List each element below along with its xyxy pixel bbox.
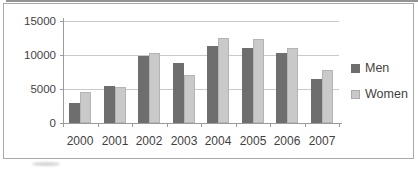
bar-women-2006 (287, 48, 298, 123)
bar-women-2001 (115, 87, 126, 123)
x-axis-label-2002: 2002 (132, 135, 166, 148)
y-axis-label-0: 0 (16, 117, 56, 129)
legend-item-women: Women (351, 88, 408, 101)
x-axis-label-2000: 2000 (63, 135, 97, 148)
x-tick-4 (201, 124, 202, 127)
top-edge-line (6, 0, 418, 2)
bar-women-2002 (149, 53, 160, 123)
bar-men-2007 (311, 79, 322, 123)
chart-frame: 0500010000150002000200120022003200420052… (3, 3, 414, 159)
x-tick-3 (167, 124, 168, 127)
y-axis-label-10000: 10000 (16, 49, 56, 61)
bar-men-2003 (173, 63, 184, 123)
gridline-15000 (63, 21, 339, 22)
bar-women-2004 (218, 38, 229, 123)
legend: MenWomen (351, 62, 408, 114)
x-tick-1 (98, 124, 99, 127)
x-axis-label-2003: 2003 (167, 135, 201, 148)
legend-label-women: Women (365, 88, 408, 101)
bar-men-2001 (104, 86, 115, 123)
x-axis-label-2006: 2006 (270, 135, 304, 148)
y-axis-line (63, 18, 64, 124)
bar-men-2002 (138, 56, 149, 123)
x-axis-label-2001: 2001 (98, 135, 132, 148)
x-axis-label-2004: 2004 (201, 135, 235, 148)
bar-women-2007 (322, 70, 333, 123)
legend-swatch-men (351, 64, 360, 73)
bar-women-2005 (253, 39, 264, 123)
legend-label-men: Men (365, 62, 389, 75)
x-axis-label-2007: 2007 (305, 135, 339, 148)
bar-men-2006 (276, 53, 287, 123)
y-axis-label-15000: 15000 (16, 15, 56, 27)
x-tick-7 (305, 124, 306, 127)
x-axis-line (63, 123, 342, 124)
smudge-mark (32, 162, 60, 166)
legend-item-men: Men (351, 62, 408, 75)
chart-screenshot: 0500010000150002000200120022003200420052… (0, 0, 418, 171)
y-axis-label-5000: 5000 (16, 83, 56, 95)
bar-men-2005 (242, 48, 253, 123)
bar-men-2000 (69, 103, 80, 123)
x-tick-6 (270, 124, 271, 127)
bar-women-2003 (184, 75, 195, 123)
x-tick-8 (339, 124, 340, 127)
x-axis-label-2005: 2005 (236, 135, 270, 148)
x-tick-0 (63, 124, 64, 127)
legend-swatch-women (351, 90, 360, 99)
x-tick-5 (236, 124, 237, 127)
x-tick-2 (132, 124, 133, 127)
bar-men-2004 (207, 46, 218, 123)
bar-women-2000 (80, 92, 91, 123)
